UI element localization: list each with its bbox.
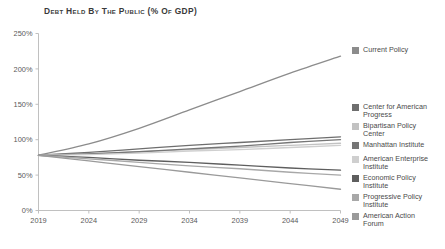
y-axis-tick-label: 100% (14, 135, 33, 144)
series-line (39, 137, 341, 155)
y-axis-tick-label: 200% (14, 65, 33, 74)
legend-item-label: Manhattan Institute (363, 141, 424, 149)
legend-item[interactable]: Economic Policy Institute (352, 174, 437, 190)
legend-item-label: Progressive Policy Institute (363, 193, 437, 209)
series-lines (39, 56, 341, 189)
series-line (39, 155, 341, 170)
legend-item[interactable]: Current Policy (352, 46, 408, 54)
x-axis-tick-label: 2049 (332, 216, 348, 225)
legend-swatch-icon (352, 213, 359, 220)
y-axis-tick-labels: 0%50%100%150%200%250% (14, 29, 33, 215)
legend-swatch-icon (352, 156, 359, 163)
legend-item-label: American Action Forum (363, 212, 437, 228)
y-axis-tick-label: 150% (14, 100, 33, 109)
legend-item-label: Center for American Progress (363, 103, 437, 119)
axis-tick-marks (36, 34, 341, 214)
legend-swatch-icon (352, 47, 359, 54)
legend-item[interactable]: Bipartisan Policy Center (352, 122, 437, 138)
x-axis-tick-label: 2034 (181, 216, 197, 225)
legend-item-label: American Enterprise Institute (363, 155, 437, 171)
x-axis-tick-labels: 2019202420292034203920442049 (30, 216, 348, 225)
legend-item[interactable]: Progressive Policy Institute (352, 193, 437, 209)
legend-item-label: Current Policy (363, 46, 408, 54)
legend-swatch-icon (352, 194, 359, 201)
legend-item-label: Bipartisan Policy Center (363, 122, 437, 138)
x-axis-tick-label: 2039 (232, 216, 248, 225)
x-axis-tick-label: 2044 (282, 216, 298, 225)
legend-swatch-icon (352, 142, 359, 149)
legend-item-label: Economic Policy Institute (363, 174, 437, 190)
y-axis-tick-label: 250% (14, 29, 33, 38)
legend-item[interactable]: Manhattan Institute (352, 141, 424, 149)
legend-swatch-icon (352, 175, 359, 182)
y-axis-tick-label: 50% (18, 171, 33, 180)
series-line (39, 56, 341, 155)
legend-item[interactable]: American Action Forum (352, 212, 437, 228)
legend-swatch-icon (352, 123, 359, 130)
chart-legend: Current PolicyCenter for American Progre… (352, 0, 445, 249)
x-axis-tick-label: 2024 (81, 216, 97, 225)
x-axis-tick-label: 2029 (131, 216, 147, 225)
legend-item[interactable]: American Enterprise Institute (352, 155, 437, 171)
x-axis-tick-label: 2019 (30, 216, 46, 225)
legend-swatch-icon (352, 104, 359, 111)
legend-item[interactable]: Center for American Progress (352, 103, 437, 119)
y-axis-tick-label: 0% (22, 206, 33, 215)
chart-container: Debt Held by the Public (% of GDP) 0%50%… (0, 0, 445, 249)
